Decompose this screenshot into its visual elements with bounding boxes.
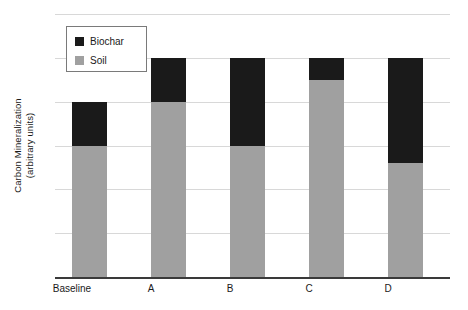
- y-axis-label-container: Carbon Mineralization (arbitrary units): [0, 0, 46, 290]
- bar-c-segment-soil[interactable]: [309, 80, 344, 277]
- bar-b[interactable]: [230, 58, 265, 277]
- x-tick-label-d: D: [343, 283, 433, 294]
- bar-baseline[interactable]: [72, 102, 107, 277]
- x-axis-line: [55, 277, 450, 279]
- legend-label-soil: Soil: [90, 55, 107, 66]
- y-axis-label: Carbon Mineralization (arbitrary units): [12, 98, 35, 193]
- bar-b-segment-biochar[interactable]: [230, 58, 265, 146]
- y-axis-label-line1: Carbon Mineralization: [12, 98, 23, 193]
- gridline-6: [55, 14, 450, 15]
- bar-d-segment-biochar[interactable]: [388, 58, 423, 163]
- x-tick-label-b: B: [185, 283, 275, 294]
- bar-baseline-segment-biochar[interactable]: [72, 102, 107, 146]
- bar-a-segment-biochar[interactable]: [151, 58, 186, 102]
- legend-swatch-biochar-icon: [75, 37, 84, 46]
- x-tick-label-c: C: [264, 283, 354, 294]
- bar-d-segment-soil[interactable]: [388, 163, 423, 277]
- bar-a[interactable]: [151, 58, 186, 277]
- bar-a-segment-soil[interactable]: [151, 102, 186, 277]
- bar-c-segment-biochar[interactable]: [309, 58, 344, 80]
- x-tick-label-a: A: [106, 283, 196, 294]
- y-axis-label-line2: (arbitrary units): [23, 98, 35, 193]
- legend-label-biochar: Biochar: [90, 36, 124, 47]
- stacked-bar-chart-figure: Carbon Mineralization (arbitrary units): [0, 0, 468, 310]
- bar-c[interactable]: [309, 58, 344, 277]
- legend: Biochar Soil: [66, 26, 147, 72]
- legend-item-soil[interactable]: Soil: [75, 52, 146, 69]
- bar-b-segment-soil[interactable]: [230, 146, 265, 277]
- bar-baseline-segment-soil[interactable]: [72, 146, 107, 277]
- x-tick-label-baseline: Baseline: [27, 283, 117, 294]
- legend-swatch-soil-icon: [75, 56, 84, 65]
- legend-item-biochar[interactable]: Biochar: [75, 33, 146, 50]
- bar-d[interactable]: [388, 58, 423, 277]
